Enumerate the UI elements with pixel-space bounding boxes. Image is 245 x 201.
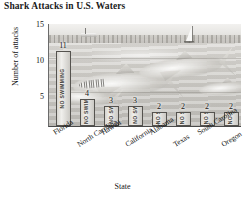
bar-value-label: 3 xyxy=(133,97,137,105)
no-swimming-sign-text: NO SWIMMING xyxy=(61,69,66,109)
y-tick-10: 10 xyxy=(28,57,44,65)
bar-series: 11NO SWIMMING4NO SWIMMING3NO SWIMMING3NO… xyxy=(49,24,241,126)
no-swimming-sign-text: NO SWIMMING xyxy=(181,114,186,124)
bar-value-label: 11 xyxy=(59,42,67,50)
bar-value-label: 2 xyxy=(157,103,161,111)
chart-title: Shark Attacks in U.S. Waters xyxy=(4,1,125,11)
plot-area: 11NO SWIMMING4NO SWIMMING3NO SWIMMING3NO… xyxy=(48,24,241,127)
bar-group[interactable]: 11NO SWIMMING xyxy=(53,42,73,126)
x-axis-tick-labels: FloridaNorth CarolinaHawaiiCaliforniaAla… xyxy=(48,126,240,180)
shark-attacks-bar-chart: Shark Attacks in U.S. Waters Number of a… xyxy=(0,0,245,201)
bar-group[interactable]: 2NO SWIMMING xyxy=(173,103,193,126)
y-axis-title: Number of attacks xyxy=(11,14,20,100)
y-tick-5: 5 xyxy=(28,93,44,101)
bar[interactable]: NO SWIMMING xyxy=(128,106,143,126)
bar[interactable]: NO SWIMMING xyxy=(80,99,95,126)
no-swimming-sign-text: NO SWIMMING xyxy=(133,108,138,124)
bar-value-label: 3 xyxy=(109,97,113,105)
no-swimming-sign-text: NO SWIMMING xyxy=(85,101,90,124)
bar-group[interactable]: 3NO SWIMMING xyxy=(125,97,145,126)
x-tick-label: Texas xyxy=(172,133,191,149)
x-axis-title: State xyxy=(0,182,245,191)
bar-group[interactable]: 4NO SWIMMING xyxy=(77,90,97,126)
bar[interactable]: NO SWIMMING xyxy=(176,112,191,126)
bar-value-label: 4 xyxy=(85,90,89,98)
bar-value-label: 2 xyxy=(205,103,209,111)
y-tick-15: 15 xyxy=(28,21,44,29)
x-tick-label: Oregon xyxy=(220,130,243,148)
bar[interactable]: NO SWIMMING xyxy=(56,51,71,126)
bar-value-label: 2 xyxy=(181,103,185,111)
y-axis-tick-labels: 15 10 5 xyxy=(26,0,44,201)
